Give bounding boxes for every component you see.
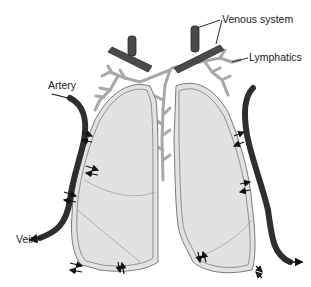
pleural-fluid-diagram: Venous system Lymphatics Artery Vein (0, 0, 311, 287)
label-venous-system: Venous system (222, 14, 293, 25)
label-lymphatics: Lymphatics (249, 52, 302, 63)
label-vein: Vein (16, 234, 36, 245)
label-artery: Artery (48, 80, 76, 91)
lung-diagram-graphic (0, 0, 311, 287)
